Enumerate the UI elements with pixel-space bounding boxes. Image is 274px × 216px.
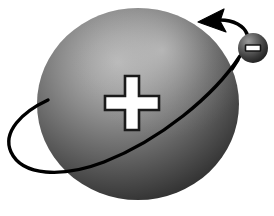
atom-diagram: Atom schematic: positively charged nucle…	[0, 0, 274, 216]
electron-minus-icon	[246, 45, 261, 51]
atom-illustration	[0, 0, 274, 216]
electron-sphere	[238, 33, 268, 63]
